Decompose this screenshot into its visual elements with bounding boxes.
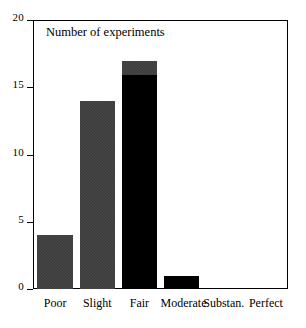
y-axis-tick-mark	[27, 87, 33, 88]
x-axis-label: Fair	[118, 296, 160, 310]
bar[interactable]	[80, 101, 115, 289]
y-axis-tick-mark	[27, 222, 33, 223]
bars-area	[34, 21, 287, 289]
x-axis-label: Moderate	[161, 296, 203, 310]
y-axis-tick-mark	[27, 20, 33, 21]
chart-title: Number of experiments	[46, 25, 165, 39]
y-axis-tick-mark	[27, 155, 33, 156]
bar-segment	[164, 276, 199, 289]
bar-segment-cap	[122, 61, 157, 74]
x-axis-label: Slight	[76, 296, 118, 310]
y-axis-tick-label: 10	[13, 147, 24, 158]
bar-segment	[37, 235, 72, 289]
bar[interactable]	[164, 276, 199, 289]
x-axis-label: Perfect	[245, 296, 287, 310]
bar-chart-figure: 05101520 PoorSlightFairModerateSubstan.P…	[0, 0, 306, 328]
y-axis-tick-label: 20	[13, 12, 24, 23]
y-axis-tick-mark	[27, 289, 33, 290]
x-axis-label: Poor	[34, 296, 76, 310]
bar[interactable]	[122, 61, 157, 289]
bar-segment	[80, 101, 115, 289]
bar-slot	[161, 21, 203, 289]
x-axis-label: Substan.	[203, 296, 245, 310]
bar-slot	[118, 21, 160, 289]
y-axis-tick-label: 0	[18, 281, 24, 292]
y-axis: 05101520	[0, 20, 33, 289]
y-axis-tick-label: 15	[13, 79, 24, 90]
bar-slot	[34, 21, 76, 289]
x-axis-labels: PoorSlightFairModerateSubstan.Perfect	[34, 296, 287, 316]
bar[interactable]	[37, 235, 72, 289]
bar-slot	[203, 21, 245, 289]
y-axis-tick-label: 5	[18, 214, 24, 225]
bar-segment-lower	[122, 75, 157, 289]
bar-slot	[245, 21, 287, 289]
bar-slot	[76, 21, 118, 289]
